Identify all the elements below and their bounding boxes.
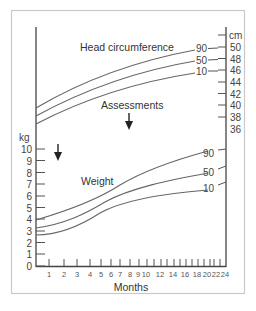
weight-title: Weight: [81, 175, 114, 187]
svg-text:18: 18: [193, 270, 201, 279]
head-p50-label: 50: [196, 55, 208, 66]
kg-tick-labels: 0 1 2 3 4 5 6 7 8 9 10: [21, 144, 33, 272]
svg-text:2: 2: [62, 270, 66, 279]
cm-unit-label: cm: [229, 30, 242, 41]
svg-text:7: 7: [118, 270, 122, 279]
month-tick-labels: 1 2 3 4 5 6 7 8 9 10 12 14 16 18 20 22 2…: [47, 270, 229, 279]
svg-text:1: 1: [47, 270, 51, 279]
svg-text:9: 9: [26, 156, 32, 167]
svg-text:3: 3: [26, 226, 32, 237]
svg-text:1: 1: [26, 249, 32, 260]
svg-text:50: 50: [230, 42, 242, 53]
assessment-arrow-icon: [125, 113, 133, 130]
svg-text:3: 3: [75, 270, 79, 279]
svg-text:8: 8: [128, 270, 132, 279]
weight-p50-label: 50: [203, 167, 215, 178]
weight-curve-10: [36, 190, 208, 235]
svg-text:40: 40: [230, 100, 242, 111]
svg-text:46: 46: [230, 65, 242, 76]
svg-text:6: 6: [109, 270, 113, 279]
svg-text:6: 6: [26, 191, 32, 202]
svg-text:22: 22: [212, 270, 220, 279]
weight-curve-50: [36, 173, 208, 228]
month-ticks: [49, 259, 220, 266]
svg-text:9: 9: [136, 270, 140, 279]
svg-text:4: 4: [26, 214, 32, 225]
svg-text:5: 5: [99, 270, 103, 279]
svg-text:24: 24: [221, 270, 229, 279]
svg-text:36: 36: [230, 124, 242, 135]
svg-text:2: 2: [26, 238, 32, 249]
kg-unit-label: kg: [19, 132, 30, 143]
svg-text:10: 10: [21, 144, 33, 155]
weight-p10-label: 10: [203, 183, 215, 194]
x-axis-title: Months: [114, 281, 148, 293]
svg-text:0: 0: [26, 261, 32, 272]
svg-text:48: 48: [230, 54, 242, 65]
growth-chart: kg 0 1 2 3 4 5 6 7 8 9 10 cm 5: [0, 0, 256, 311]
svg-text:4: 4: [88, 270, 92, 279]
head-p10-label: 10: [196, 66, 208, 77]
svg-text:7: 7: [26, 179, 32, 190]
svg-text:16: 16: [181, 270, 189, 279]
svg-text:8: 8: [26, 168, 32, 179]
weight-curve-90: [36, 151, 208, 220]
weight-p90-label: 90: [203, 148, 215, 159]
weight-arrow-icon: [54, 144, 62, 161]
svg-text:42: 42: [230, 89, 242, 100]
svg-text:10: 10: [142, 270, 150, 279]
cm-tick-labels: 50 48 46 44 42 40 38 36: [230, 42, 242, 135]
assessments-label: Assessments: [101, 99, 163, 111]
cm-ticks: [218, 35, 226, 117]
svg-text:14: 14: [169, 270, 177, 279]
kg-ticks: [36, 149, 45, 266]
head-circumference-title: Head circumference: [80, 41, 174, 53]
svg-text:12: 12: [156, 270, 164, 279]
svg-text:20: 20: [203, 270, 211, 279]
svg-text:5: 5: [26, 203, 32, 214]
svg-text:44: 44: [230, 77, 242, 88]
svg-text:38: 38: [230, 112, 242, 123]
head-p90-label: 90: [196, 43, 208, 54]
